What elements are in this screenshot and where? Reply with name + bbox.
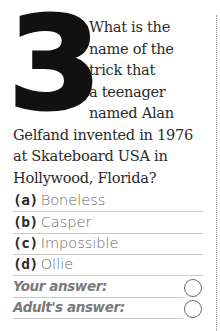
option-c[interactable]: (c)Impossible (13, 233, 203, 255)
option-text: Ollie (41, 254, 73, 274)
option-text: Boneless (41, 190, 106, 210)
option-letter: (a) (13, 190, 38, 210)
question-line: a teenager (89, 81, 166, 103)
option-letter: (c) (13, 233, 38, 253)
question-line: trick that (89, 59, 155, 81)
adult-answer-row: Adult's answer: (13, 297, 183, 319)
option-text: Impossible (41, 233, 119, 253)
page-dotted-border (216, 15, 217, 331)
adult-answer-label: Adult's answer: (13, 299, 125, 315)
question-line: named Alan (89, 102, 174, 124)
question-line: Gelfand invented in 1976 (13, 124, 193, 146)
option-letter: (d) (13, 254, 38, 274)
option-d[interactable]: (d)Ollie (13, 254, 203, 276)
option-letter: (b) (13, 212, 38, 232)
adult-answer-circle[interactable] (184, 300, 202, 318)
your-answer-circle[interactable] (184, 279, 202, 297)
question-number: 3 (8, 4, 92, 124)
your-answer-row: Your answer: (13, 276, 183, 298)
option-a[interactable]: (a)Boneless (13, 190, 203, 212)
option-text: Casper (41, 212, 92, 232)
your-answer-label: Your answer: (13, 278, 107, 294)
option-b[interactable]: (b)Casper (13, 212, 203, 234)
question-line: name of the (89, 38, 174, 60)
question-line: at Skateboard USA in (13, 145, 168, 167)
question-line: Hollywood, Florida? (13, 167, 156, 189)
question-line: What is the (89, 16, 170, 38)
